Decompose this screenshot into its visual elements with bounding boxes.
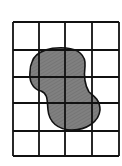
diagram-canvas bbox=[0, 0, 122, 166]
grid-diagram bbox=[0, 0, 122, 166]
